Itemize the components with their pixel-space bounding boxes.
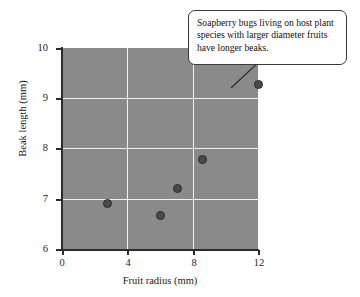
data-point <box>156 211 165 220</box>
annotation-callout: Soapberry bugs living on host plant spec… <box>188 10 347 65</box>
y-tick-6 <box>56 249 61 251</box>
y-tick-10 <box>56 48 61 50</box>
x-axis-line <box>61 249 259 251</box>
x-tick-8 <box>193 250 195 255</box>
plot-area <box>62 48 258 249</box>
y-tick-7 <box>56 199 61 201</box>
y-axis-line <box>61 47 63 250</box>
scatter-plot-figure: 10 9 8 7 6 0 4 8 12 Beak length (mm) Fru… <box>0 0 360 297</box>
gridline-y-9 <box>62 98 258 99</box>
data-point <box>254 80 263 89</box>
y-tick-label: 9 <box>28 93 48 104</box>
x-tick-label: 8 <box>182 258 206 269</box>
data-point <box>198 155 207 164</box>
gridline-y-8 <box>62 148 258 149</box>
y-tick-8 <box>56 148 61 150</box>
y-tick-label: 6 <box>28 244 48 255</box>
x-tick-label: 0 <box>50 258 74 269</box>
gridline-x-4 <box>127 48 128 249</box>
y-tick-label: 10 <box>28 43 48 54</box>
y-tick-label: 8 <box>28 143 48 154</box>
data-point <box>173 184 182 193</box>
x-tick-12 <box>258 250 260 255</box>
gridline-x-8 <box>193 48 194 249</box>
y-tick-label: 7 <box>28 194 48 205</box>
x-tick-label: 12 <box>247 258 271 269</box>
y-tick-9 <box>56 98 61 100</box>
x-tick-4 <box>127 250 129 255</box>
y-axis-title: Beak length (mm) <box>17 54 28 184</box>
x-axis-title: Fruit radius (mm) <box>62 275 258 286</box>
data-point <box>103 199 112 208</box>
x-tick-0 <box>62 250 64 255</box>
x-tick-label: 4 <box>116 258 140 269</box>
gridline-y-7 <box>62 199 258 200</box>
